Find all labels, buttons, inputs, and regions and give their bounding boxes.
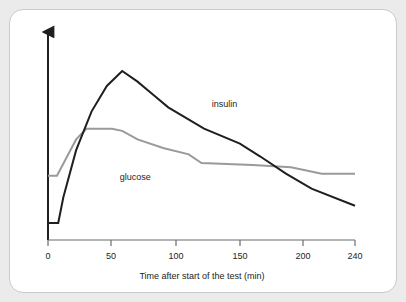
x-tick-label-150: 150: [232, 251, 247, 261]
screenshot-root: 0 50 100 150 200 240 insulin glucose Tim…: [0, 0, 406, 302]
x-axis-title: Time after start of the test (min): [139, 271, 264, 281]
x-tick-label-0: 0: [45, 251, 50, 261]
x-tick-label-240: 240: [347, 251, 362, 261]
x-axis-ticks: [48, 240, 355, 246]
glucose-line: [48, 129, 355, 176]
x-tick-label-100: 100: [168, 251, 183, 261]
x-tick-label-200: 200: [295, 251, 310, 261]
line-chart: 0 50 100 150 200 240 insulin glucose Tim…: [0, 0, 406, 302]
x-tick-label-50: 50: [106, 251, 116, 261]
x-axis-tick-labels: 0 50 100 150 200 240: [45, 251, 362, 261]
insulin-series-label: insulin: [212, 99, 238, 109]
glucose-series-label: glucose: [120, 172, 151, 182]
insulin-line: [48, 71, 355, 223]
